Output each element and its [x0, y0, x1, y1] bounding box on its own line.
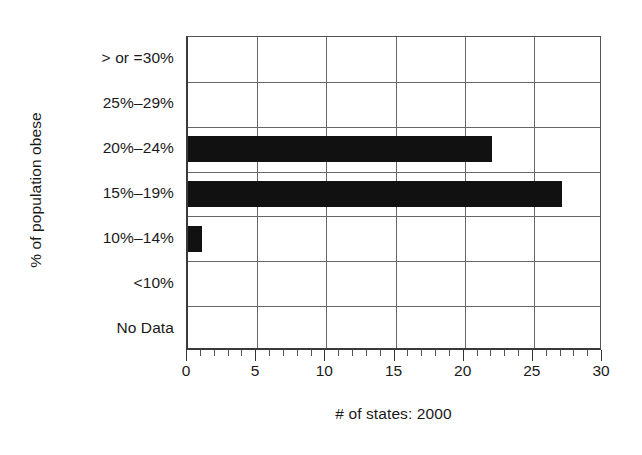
x-axis-minor-tick — [477, 350, 478, 356]
x-axis-tick-label: 20 — [454, 362, 471, 380]
x-axis-minor-tick — [573, 350, 574, 356]
x-axis-tick-label: 5 — [251, 362, 260, 380]
x-axis-minor-tick — [504, 350, 505, 356]
x-axis-minor-tick — [546, 350, 547, 356]
x-axis-tick-label: 15 — [385, 362, 402, 380]
x-axis-minor-tick — [490, 350, 491, 356]
x-axis-ticks — [186, 350, 601, 362]
bar — [188, 226, 202, 252]
x-axis-major-tick — [255, 350, 256, 361]
x-axis-minor-tick — [435, 350, 436, 356]
x-axis-minor-tick — [269, 350, 270, 356]
x-axis-tick-label: 30 — [592, 362, 609, 380]
x-axis-major-tick — [601, 350, 602, 361]
x-axis-minor-tick — [228, 350, 229, 356]
horizontal-gridline — [188, 82, 600, 83]
x-axis-minor-tick — [380, 350, 381, 356]
y-axis-tick-label: <10% — [134, 260, 174, 305]
bar-chart-figure: % of population obese No Data<10%10%–14%… — [0, 0, 642, 455]
y-axis-tick-label: 20%–24% — [103, 126, 174, 171]
y-axis-tick-label: 15%–19% — [103, 171, 174, 216]
horizontal-gridline — [188, 306, 600, 307]
x-axis-major-tick — [463, 350, 464, 361]
plot-area — [186, 36, 601, 350]
x-axis-minor-tick — [366, 350, 367, 356]
x-axis-minor-tick — [587, 350, 588, 356]
x-axis-minor-tick — [297, 350, 298, 356]
x-axis-minor-tick — [311, 350, 312, 356]
y-axis-tick-label: 25%–29% — [103, 81, 174, 126]
x-axis-minor-tick — [421, 350, 422, 356]
x-axis-minor-tick — [560, 350, 561, 356]
x-axis-tick-labels: 051015202530 — [186, 362, 601, 386]
bar — [188, 181, 562, 207]
x-axis-minor-tick — [283, 350, 284, 356]
x-axis-minor-tick — [518, 350, 519, 356]
x-axis-minor-tick — [338, 350, 339, 356]
x-axis-major-tick — [394, 350, 395, 361]
y-axis-tick-label: No Data — [116, 305, 174, 350]
x-axis-tick-label: 0 — [182, 362, 191, 380]
y-axis-tick-label: 10%–14% — [103, 215, 174, 260]
y-axis-tick-labels: No Data<10%10%–14%15%–19%20%–24%25%–29%>… — [48, 36, 180, 350]
x-axis-major-tick — [186, 350, 187, 361]
horizontal-gridline — [188, 216, 600, 217]
y-axis-tick-label: > or =30% — [102, 36, 174, 81]
x-axis-minor-tick — [352, 350, 353, 356]
horizontal-gridline — [188, 261, 600, 262]
x-axis-minor-tick — [214, 350, 215, 356]
x-axis-title: # of states: 2000 — [186, 405, 601, 423]
bar — [188, 136, 492, 162]
horizontal-gridline — [188, 172, 600, 173]
x-axis-minor-tick — [407, 350, 408, 356]
x-axis-major-tick — [324, 350, 325, 361]
horizontal-gridline — [188, 127, 600, 128]
x-axis-minor-tick — [200, 350, 201, 356]
x-axis-minor-tick — [449, 350, 450, 356]
x-axis-tick-label: 10 — [316, 362, 333, 380]
x-axis-tick-label: 25 — [523, 362, 540, 380]
x-axis-major-tick — [532, 350, 533, 361]
x-axis-minor-tick — [241, 350, 242, 356]
